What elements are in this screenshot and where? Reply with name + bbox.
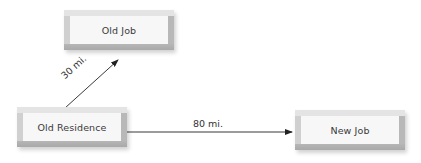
node-label: New Job	[301, 116, 399, 144]
node-new-job: New Job	[295, 110, 405, 150]
commute-diagram: Old Job Old Residence New Job 30 mi. 80 …	[0, 0, 421, 163]
node-label: Old Job	[70, 16, 168, 44]
edge-label-80-mi: 80 mi.	[193, 118, 223, 129]
node-label: Old Residence	[23, 113, 121, 141]
node-old-residence: Old Residence	[17, 107, 127, 147]
node-old-job: Old Job	[64, 10, 174, 50]
